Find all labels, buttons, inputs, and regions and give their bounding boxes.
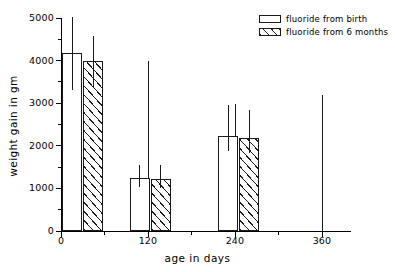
y-tick-3000: [56, 103, 62, 104]
error-bar-series1-group0: [93, 36, 94, 86]
legend-item-1: fluoride from 6 months: [259, 26, 388, 38]
hatched-rect-swatch-icon: [259, 28, 281, 36]
x-axis-title: age in days: [0, 252, 395, 264]
y-tick-label-0: 0: [48, 226, 54, 236]
y-axis-title: weight gain in gm: [7, 61, 19, 191]
error-bar-series1-group2: [249, 110, 250, 153]
open-rect-swatch-icon: [259, 15, 281, 23]
legend-label-1: fluoride from 6 months: [286, 26, 388, 38]
x-tick-label-360: 360: [302, 236, 342, 246]
y-tick-minor-4500: [58, 39, 62, 40]
legend-item-0: fluoride from birth: [259, 13, 388, 25]
x-tick-label-240: 240: [215, 236, 255, 246]
x-tick-minor-60: [104, 231, 105, 235]
y-tick-5000: [56, 18, 62, 19]
legend-label-0: fluoride from birth: [286, 13, 367, 25]
error-bar-series0-group2: [228, 105, 229, 151]
x-tick-label-120: 120: [128, 236, 168, 246]
chart-figure: 0100020003000400050000120240360 weight g…: [0, 0, 395, 272]
chart-legend: fluoride from birth fluoride from 6 mont…: [259, 13, 388, 39]
y-tick-label-1000: 1000: [29, 183, 54, 193]
error-bar-series0-group0: [72, 17, 73, 90]
x-tick-label-0: 0: [41, 236, 81, 246]
error-bar-series0-group1: [139, 165, 140, 187]
y-tick-2000: [56, 145, 62, 146]
y-tick-label-5000: 5000: [29, 13, 54, 23]
y-tick-4000: [56, 60, 62, 61]
x-tick-minor-180: [191, 231, 192, 235]
x-tick-minor-300: [278, 231, 279, 235]
error-bar-series1-group1: [160, 165, 161, 188]
y-tick-label-4000: 4000: [29, 56, 54, 66]
y-tick-label-2000: 2000: [29, 141, 54, 151]
y-tick-label-3000: 3000: [29, 98, 54, 108]
marker-line-360: [322, 95, 323, 231]
y-tick-1000: [56, 188, 62, 189]
